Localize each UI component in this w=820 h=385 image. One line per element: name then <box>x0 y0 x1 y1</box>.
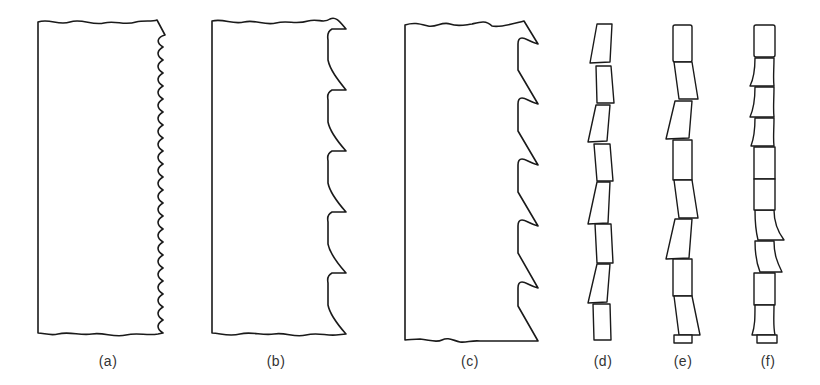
panel-a-blade <box>38 20 165 336</box>
panel-f-tooth-set <box>750 25 784 343</box>
panel-d-label: (d) <box>594 353 613 369</box>
panel-f-label: (f) <box>761 353 776 369</box>
panel-d-tooth-set <box>588 24 614 340</box>
panel-c-blade <box>405 21 538 342</box>
panel-b-blade <box>212 18 346 336</box>
panel-c-label: (c) <box>461 353 479 369</box>
panel-e-tooth-set <box>666 25 700 343</box>
panel-e-label: (e) <box>674 353 693 369</box>
panel-b-label: (b) <box>267 353 286 369</box>
panel-a-label: (a) <box>99 353 118 369</box>
saw-blade-diagram: (a) (b) (c) (d) (e) (f) <box>0 0 820 385</box>
